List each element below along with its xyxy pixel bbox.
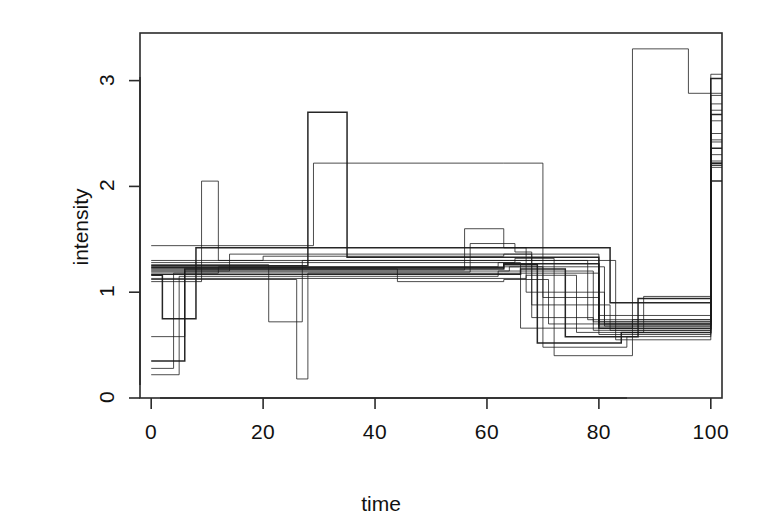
y-axis-tick-label-text: 2 [95,179,119,191]
y-axis-tick-label: 3 [94,68,120,92]
y-axis-ticks [129,81,140,398]
plot-frame-box [140,33,722,398]
chart-figure: 020406080100 0123 time intensity [0,0,762,532]
step-trace [151,112,722,328]
y-axis-title: intensity [42,215,119,239]
step-trace [151,163,722,361]
step-trace [151,95,722,330]
x-axis-tick-label: 60 [475,420,499,444]
x-axis-tick-label: 20 [251,420,275,444]
y-axis-tick-label: 0 [94,385,120,409]
step-trace [151,163,722,322]
y-axis-tick-label: 2 [94,173,120,197]
step-trace [151,142,722,320]
y-axis-tick-label-text: 1 [95,285,119,297]
step-trace [151,148,722,336]
step-trace [151,181,722,319]
x-axis-tick-label: 40 [363,420,387,444]
y-axis [129,77,140,398]
step-trace [151,110,722,315]
step-trace [151,167,722,332]
step-trace [151,104,722,324]
step-trace [151,134,722,340]
step-trace [151,74,722,347]
series-lines [151,49,722,379]
y-axis-tick-label: 1 [94,279,120,303]
x-axis [151,398,711,409]
x-axis-tick-label: 100 [693,420,730,444]
x-axis-tick-label: 0 [145,420,157,444]
step-trace [151,49,722,328]
y-axis-tick-label-text: 0 [95,391,119,403]
x-axis-tick-label: 80 [587,420,611,444]
x-axis-ticks [151,398,711,409]
y-axis-title-text: intensity [69,188,93,265]
y-axis-tick-label-text: 3 [95,74,119,86]
x-axis-title: time [361,492,401,516]
